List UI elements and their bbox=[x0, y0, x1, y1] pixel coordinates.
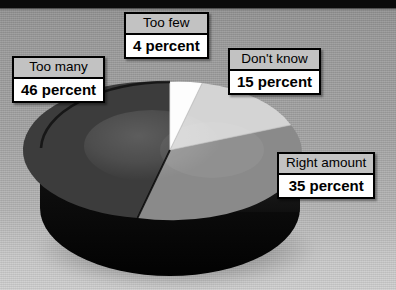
callout-too-few-value: 4 percent bbox=[126, 35, 207, 57]
callout-too-many: Too many 46 percent bbox=[12, 56, 105, 103]
callout-right-amount-value: 35 percent bbox=[279, 175, 373, 197]
callout-dont-know-title: Don't know bbox=[230, 50, 319, 71]
callout-dont-know: Don't know 15 percent bbox=[228, 48, 321, 95]
callout-right-amount: Right amount 35 percent bbox=[277, 152, 375, 199]
callout-right-amount-title: Right amount bbox=[279, 154, 373, 175]
callout-too-many-title: Too many bbox=[14, 58, 103, 79]
callout-too-many-value: 46 percent bbox=[14, 79, 103, 101]
callout-too-few: Too few 4 percent bbox=[124, 12, 209, 59]
top-face-highlight-2 bbox=[160, 122, 264, 178]
callout-too-few-title: Too few bbox=[126, 14, 207, 35]
callout-dont-know-value: 15 percent bbox=[230, 71, 319, 93]
chart-image: Too few 4 percent Too many 46 percent Do… bbox=[0, 0, 396, 290]
